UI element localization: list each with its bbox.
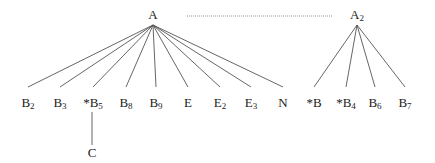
tree-edges xyxy=(28,25,405,145)
node-subscript: 6 xyxy=(377,101,382,111)
node-subscript: 4 xyxy=(351,101,356,111)
child-node-c: C xyxy=(88,145,97,160)
node-label: B xyxy=(368,95,377,110)
leaf-node-n: N xyxy=(278,95,288,110)
edge-a2-b6 xyxy=(357,25,375,87)
node-label: B xyxy=(53,95,62,110)
node-label: E xyxy=(184,95,192,110)
node-label: N xyxy=(278,95,288,110)
root-node-a2: A2 xyxy=(350,7,364,23)
leaf-node-b2: B2 xyxy=(21,95,34,111)
node-subscript: 8 xyxy=(128,101,133,111)
edge-a-b5 xyxy=(93,25,153,87)
node-subscript: 3 xyxy=(62,101,67,111)
leaf-node-b: *B xyxy=(306,95,322,110)
edge-a-n xyxy=(153,25,283,87)
node-label: *B xyxy=(336,95,352,110)
leaf-node-e3: E3 xyxy=(245,95,258,111)
node-subscript: 2 xyxy=(30,101,35,111)
leaf-node-b3: B3 xyxy=(53,95,67,111)
node-label: B xyxy=(398,95,407,110)
edge-a-e3 xyxy=(153,25,251,87)
node-subscript: 7 xyxy=(407,101,412,111)
node-label: *B xyxy=(306,95,322,110)
leaf-node-e2: E2 xyxy=(214,95,226,111)
node-label: B xyxy=(21,95,30,110)
edge-a-e xyxy=(153,25,188,87)
leaf-node-e: E xyxy=(184,95,192,110)
leaf-node-b8: B8 xyxy=(119,95,133,111)
node-subscript: 9 xyxy=(158,101,163,111)
leaf-node-b5: *B5 xyxy=(83,95,103,111)
edge-a2-b4 xyxy=(346,25,357,87)
edge-a-b2 xyxy=(28,25,153,87)
node-subscript: 3 xyxy=(253,101,258,111)
edge-a-e2 xyxy=(153,25,220,87)
node-subscript: 2 xyxy=(222,101,227,111)
tree-diagram: AA2B2B3*B5B8B9EE2E3N*B*B4B6B7C xyxy=(0,0,435,163)
node-label: B xyxy=(149,95,158,110)
edge-a-b9 xyxy=(153,25,156,87)
leaf-node-b6: B6 xyxy=(368,95,382,111)
node-label: E xyxy=(245,95,253,110)
root-node-a: A xyxy=(148,7,158,22)
node-subscript: 5 xyxy=(98,101,103,111)
leaf-node-b4: *B4 xyxy=(336,95,356,111)
node-label: E xyxy=(214,95,222,110)
edge-a2-b xyxy=(314,25,357,87)
node-label: C xyxy=(88,145,97,160)
leaf-node-b7: B7 xyxy=(398,95,412,111)
node-label: *B xyxy=(83,95,99,110)
node-subscript: 2 xyxy=(359,13,364,23)
node-label: A xyxy=(148,7,158,22)
leaf-node-b9: B9 xyxy=(149,95,163,111)
node-label: B xyxy=(119,95,128,110)
edge-a2-b7 xyxy=(357,25,405,87)
